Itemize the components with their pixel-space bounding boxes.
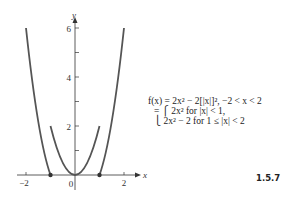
x-tick-neg2: −2 — [19, 178, 29, 188]
x-axis-arrow-icon — [135, 173, 141, 178]
formula-line-3: ⎩ 2x² − 2 for 1 ≤ |x| < 2 — [148, 116, 262, 126]
function-definition: f(x) = 2x² − 2[|x|]², −2 < x < 2 = ⎧ 2x²… — [148, 96, 262, 126]
formula-line-1: f(x) = 2x² − 2[|x|]², −2 < x < 2 — [148, 96, 262, 106]
right-branch-curve — [100, 28, 125, 175]
x-tick-0: 0 — [69, 179, 74, 189]
x-tick-2: 2 — [122, 178, 127, 188]
y-axis-label: y — [71, 10, 76, 20]
formula-line-2: = ⎧ 2x² for |x| < 1, — [148, 106, 262, 116]
x-axis-label: x — [142, 170, 147, 180]
figure-number: 1.5.7 — [256, 173, 280, 183]
left-branch-curve — [26, 28, 51, 175]
y-tick-2: 2 — [67, 122, 72, 132]
filled-point-left — [48, 173, 52, 177]
filled-point-right — [97, 173, 101, 177]
function-plot: y x 6 4 2 −2 0 2 — [0, 0, 150, 198]
y-tick-6: 6 — [67, 24, 72, 34]
y-tick-4: 4 — [67, 73, 72, 83]
